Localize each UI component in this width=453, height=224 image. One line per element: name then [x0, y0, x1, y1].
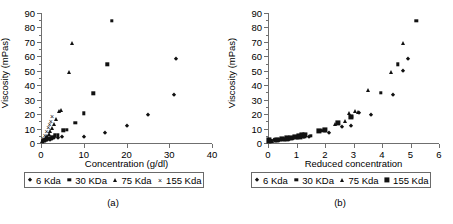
- marker-diamond: [340, 125, 345, 130]
- marker-diamond: [255, 178, 260, 183]
- y-axis-tick: [264, 85, 268, 86]
- y-axis-minor-tick: [266, 107, 268, 108]
- x-axis-tick: [297, 144, 298, 148]
- y-axis-minor-tick: [39, 92, 41, 93]
- marker-square: [91, 91, 94, 94]
- y-axis-minor-tick: [39, 49, 41, 50]
- x-axis-tick: [382, 144, 383, 148]
- x-axis-tick: [411, 144, 412, 148]
- panel-a-legend: 6 Kda30 KDa75 Kda×155 Kda: [24, 172, 204, 188]
- legend-item-label: 75 Kda: [121, 175, 151, 186]
- y-axis-tick: [264, 56, 268, 57]
- y-axis-tick-label: 90: [24, 8, 35, 19]
- marker-square: [379, 91, 382, 94]
- marker-diamond: [173, 57, 178, 62]
- y-axis-minor-tick: [266, 92, 268, 93]
- y-axis-minor-tick: [39, 20, 41, 21]
- panel-b: Viscosity (mPas) 01020304050607080900123…: [227, 0, 453, 224]
- legend-item: 30 KDa: [293, 175, 334, 186]
- marker-square: [396, 63, 399, 66]
- y-axis-tick-label: 0: [30, 138, 35, 149]
- marker-big-square: [335, 120, 340, 125]
- panel-b-y-axis-title: Viscosity (mPas): [226, 0, 239, 14]
- marker-triangle: [67, 70, 71, 74]
- y-axis-minor-tick: [39, 78, 41, 79]
- y-axis-tick: [37, 42, 41, 43]
- marker-triangle: [70, 41, 74, 45]
- marker-diamond: [391, 92, 396, 97]
- x-axis-tick: [325, 144, 326, 148]
- marker-triangle: [401, 41, 405, 45]
- y-axis-tick-label: 10: [24, 123, 35, 134]
- panel-a-caption: (a): [0, 197, 226, 208]
- marker-diamond: [368, 113, 373, 118]
- marker-triangle: [389, 70, 393, 74]
- x-axis-tick: [212, 144, 213, 148]
- marker-cross: ×: [50, 114, 55, 119]
- y-axis-tick: [37, 27, 41, 28]
- marker-square: [73, 121, 76, 124]
- y-axis-minor-tick: [266, 78, 268, 79]
- marker-big-square: [348, 114, 353, 119]
- legend-item: 75 Kda: [112, 175, 152, 186]
- legend-marker-triangle: [112, 177, 119, 184]
- x-axis-tick: [127, 144, 128, 148]
- y-axis-tick: [37, 13, 41, 14]
- y-axis-tick: [37, 100, 41, 101]
- legend-item: 6 Kda: [26, 175, 60, 186]
- legend-item: ×155 Kda: [157, 175, 202, 186]
- marker-triangle: [54, 117, 58, 121]
- panel-a-y-axis-title: Viscosity (mPas): [0, 0, 12, 14]
- y-axis-tick: [37, 114, 41, 115]
- y-axis-tick: [264, 27, 268, 28]
- legend-marker-triangle: [339, 177, 346, 184]
- legend-item-label: 30 KDa: [75, 175, 107, 186]
- legend-item: 155 Kda: [384, 175, 429, 186]
- y-axis-minor-tick: [266, 20, 268, 21]
- legend-item-label: 155 Kda: [393, 175, 428, 186]
- y-axis-minor-tick: [39, 107, 41, 108]
- y-axis-minor-tick: [266, 64, 268, 65]
- y-axis-tick-label: 50: [24, 65, 35, 76]
- marker-square: [414, 19, 417, 22]
- legend-marker-cross: ×: [157, 177, 164, 184]
- marker-diamond: [401, 68, 406, 73]
- legend-marker-square: [293, 177, 300, 184]
- marker-square: [68, 178, 71, 181]
- panel-a-plot-area: 0102030405060708090010203040×××××××: [41, 13, 212, 144]
- y-axis-tick: [37, 71, 41, 72]
- y-axis-tick: [37, 85, 41, 86]
- legend-item-label: 155 Kda: [166, 175, 201, 186]
- y-axis-tick-label: 50: [251, 65, 262, 76]
- y-axis-tick-label: 70: [24, 36, 35, 47]
- marker-triangle: [356, 110, 360, 114]
- y-axis-tick-label: 40: [251, 80, 262, 91]
- y-axis-tick-label: 60: [24, 51, 35, 62]
- x-axis-tick: [268, 144, 269, 148]
- y-axis-tick-label: 80: [24, 22, 35, 33]
- marker-diamond: [81, 134, 86, 139]
- y-axis-tick-label: 40: [24, 80, 35, 91]
- y-axis-tick-label: 10: [251, 123, 262, 134]
- panel-b-plot-area: 01020304050607080900123456: [268, 13, 439, 144]
- y-axis-tick-label: 90: [251, 8, 262, 19]
- panel-b-y-axis-line: [268, 13, 269, 144]
- legend-item: 30 KDa: [66, 175, 107, 186]
- marker-diamond: [171, 92, 176, 97]
- y-axis-minor-tick: [266, 136, 268, 137]
- marker-big-square: [274, 137, 279, 142]
- y-axis-tick: [264, 42, 268, 43]
- y-axis-tick: [264, 71, 268, 72]
- marker-diamond: [103, 130, 108, 135]
- y-axis-tick-label: 0: [257, 138, 262, 149]
- y-axis-tick-label: 70: [251, 36, 262, 47]
- x-axis-tick: [84, 144, 85, 148]
- x-axis-tick: [169, 144, 170, 148]
- marker-big-square: [322, 127, 327, 132]
- panel-b-x-axis-title: Reduced concentration: [268, 158, 439, 169]
- marker-square: [106, 63, 109, 66]
- legend-item-label: 6 Kda: [36, 175, 61, 186]
- marker-square: [110, 19, 113, 22]
- legend-item: 6 Kda: [253, 175, 287, 186]
- marker-triangle: [366, 88, 370, 92]
